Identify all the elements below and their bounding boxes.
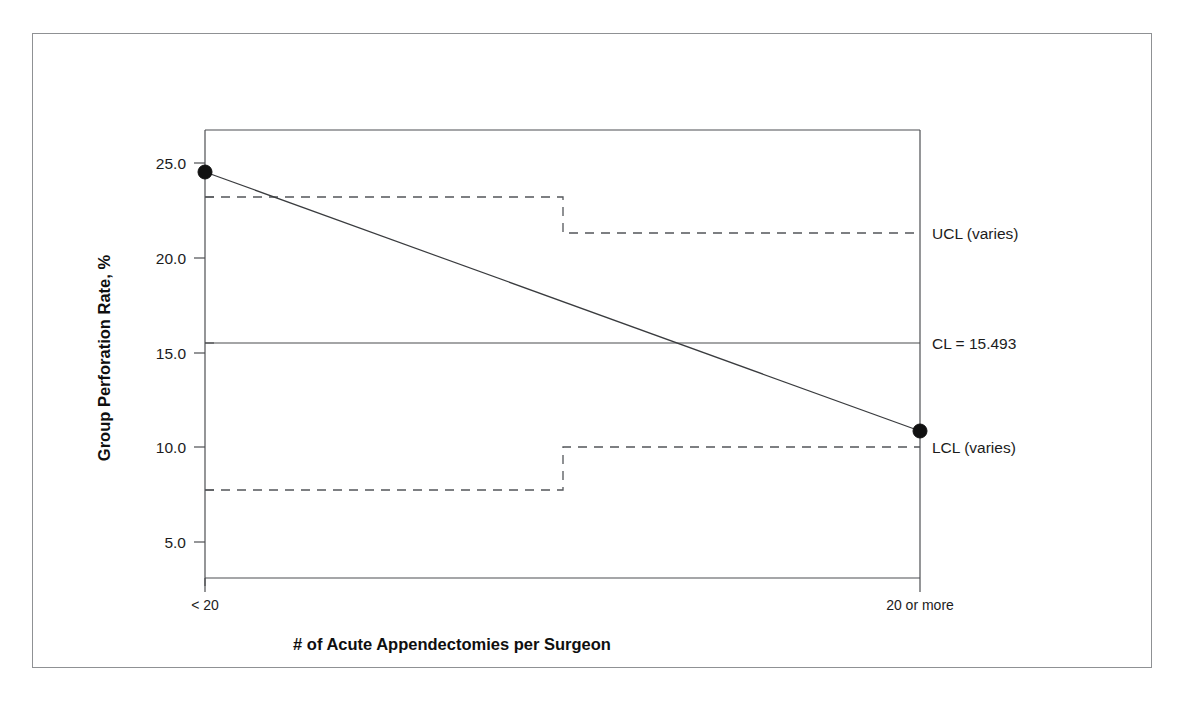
y-tick-label-15: 15.0	[156, 345, 187, 362]
upper-control-limit-line	[205, 197, 920, 233]
data-point-20-or-more[interactable]	[913, 424, 927, 438]
lcl-label: LCL (varies)	[932, 439, 1016, 456]
y-tick-label-20: 20.0	[156, 250, 187, 267]
y-tick-label-5: 5.0	[164, 534, 186, 551]
data-point-less-than-20[interactable]	[198, 165, 212, 179]
x-axis-title: # of Acute Appendectomies per Surgeon	[293, 635, 611, 653]
y-tick-label-10: 10.0	[156, 439, 187, 456]
cl-label: CL = 15.493	[932, 335, 1016, 352]
ucl-label: UCL (varies)	[932, 225, 1018, 242]
lower-control-limit-line	[205, 447, 920, 490]
chart-canvas: 25.0 20.0 15.0 10.0 5.0 < 20 20 or more …	[0, 0, 1186, 707]
x-tick-label-left: < 20	[191, 597, 219, 613]
control-chart: 25.0 20.0 15.0 10.0 5.0 < 20 20 or more …	[0, 0, 1186, 707]
x-tick-label-right: 20 or more	[886, 597, 954, 613]
y-axis-title: Group Perforation Rate, %	[95, 255, 113, 462]
y-tick-label-25: 25.0	[156, 155, 187, 172]
page-canvas: 25.0 20.0 15.0 10.0 5.0 < 20 20 or more …	[0, 0, 1186, 707]
